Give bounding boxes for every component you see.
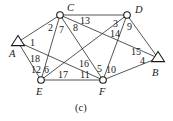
node-label-d: D [134, 4, 143, 15]
node-c-circle-icon [57, 12, 64, 19]
network-diagram: ACDBEF 127813391415418126165101711 (c) [0, 0, 173, 121]
node-d-circle-icon [124, 12, 131, 19]
node-label-f: F [98, 86, 106, 97]
edge-number-label: 7 [59, 24, 64, 35]
node-a-triangle-icon [12, 36, 25, 46]
edge-number-label: 1 [30, 37, 35, 48]
edge-number-label: 16 [79, 58, 89, 69]
edge-number-label: 9 [127, 21, 132, 32]
figure-caption: (c) [75, 102, 87, 114]
edge-number-label: 17 [58, 69, 68, 80]
node-b-triangle-icon [152, 52, 165, 62]
edge-number-label: 5 [97, 63, 102, 74]
edge-number-label: 18 [30, 53, 40, 64]
node-label-a: A [8, 48, 16, 59]
node-label-b: B [152, 67, 159, 78]
edge-number-label: 14 [110, 28, 120, 39]
edge-number-label: 8 [73, 22, 78, 33]
node-f-circle-icon [100, 77, 107, 84]
edge-number-label: 2 [48, 22, 53, 33]
edge-number-label: 12 [31, 64, 41, 75]
node-label-e: E [35, 86, 43, 97]
edge-number-label: 4 [140, 55, 145, 66]
node-e-circle-icon [38, 77, 45, 84]
edge-number-label: 6 [44, 64, 49, 75]
edge-number-label: 10 [106, 64, 116, 75]
edge-number-label: 11 [80, 69, 90, 80]
node-label-c: C [67, 2, 75, 13]
edge-number-label: 13 [80, 15, 90, 26]
